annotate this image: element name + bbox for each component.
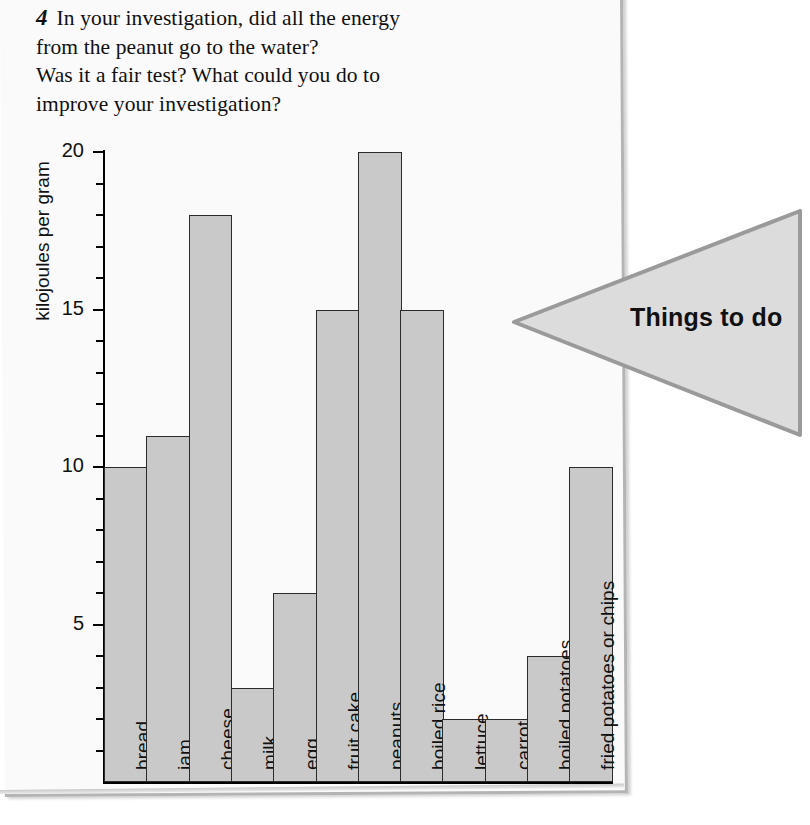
things-to-do-label: Things to do	[630, 303, 782, 332]
y-tick-minor	[96, 340, 104, 342]
y-tick-minor	[96, 246, 104, 248]
things-to-do-tab[interactable]: Things to do	[512, 203, 802, 441]
y-tick-minor	[96, 498, 104, 500]
y-tick-label: 10	[38, 454, 84, 477]
y-tick-minor	[96, 277, 104, 279]
y-tick-label: 5	[38, 612, 84, 635]
y-tick-minor	[96, 183, 104, 185]
bar	[189, 215, 233, 782]
y-tick-minor	[96, 687, 104, 689]
y-tick-major	[93, 151, 104, 153]
y-tick-major	[93, 624, 104, 626]
y-tick-minor	[96, 435, 104, 437]
y-tick-minor	[96, 214, 104, 216]
y-tick-minor	[96, 372, 104, 374]
bar	[146, 436, 190, 783]
y-tick-major	[93, 309, 104, 311]
y-tick-minor	[96, 592, 104, 594]
y-tick-major	[93, 466, 104, 468]
y-tick-minor	[96, 750, 104, 752]
y-tick-minor	[96, 718, 104, 720]
bar-label: fried potatoes or chips	[597, 581, 619, 770]
y-tick-minor	[96, 403, 104, 405]
y-tick-label: 20	[38, 139, 84, 162]
x-axis-line	[103, 782, 613, 784]
y-tick-minor	[96, 529, 104, 531]
y-tick-minor	[96, 655, 104, 657]
page-stage: 4In your investigation, did all the ener…	[0, 0, 810, 825]
y-tick-minor	[96, 561, 104, 563]
bar	[358, 152, 402, 782]
y-tick-label: 15	[38, 297, 84, 320]
